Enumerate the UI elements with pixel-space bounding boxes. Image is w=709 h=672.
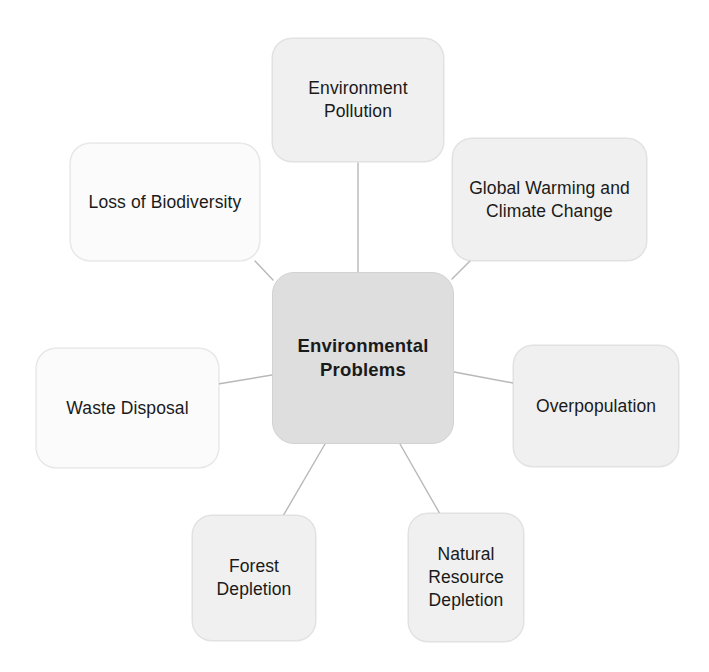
node-waste-disposal[interactable]: Waste Disposal <box>36 348 219 468</box>
connector-center-to-global-warming <box>452 261 470 279</box>
node-natural-resource[interactable]: Natural Resource Depletion <box>408 513 524 642</box>
node-label-natural-resource: Natural Resource Depletion <box>428 543 504 611</box>
node-environmental-problems[interactable]: Environmental Problems <box>272 272 454 444</box>
node-forest-depletion[interactable]: Forest Depletion <box>192 515 316 641</box>
node-label-waste-disposal: Waste Disposal <box>66 397 188 420</box>
node-label-overpopulation: Overpopulation <box>536 395 656 418</box>
node-global-warming[interactable]: Global Warming and Climate Change <box>452 138 647 261</box>
connector-center-to-waste-disposal <box>218 375 272 384</box>
connector-center-to-natural-resource <box>400 444 440 514</box>
node-label-environmental-problems: Environmental Problems <box>297 334 428 382</box>
node-label-loss-biodiversity: Loss of Biodiversity <box>89 191 242 214</box>
connector-center-to-overpopulation <box>454 372 513 383</box>
diagram-canvas: Environment Pollution Global Warming and… <box>0 0 709 672</box>
node-label-forest-depletion: Forest Depletion <box>217 555 292 601</box>
node-loss-biodiversity[interactable]: Loss of Biodiversity <box>70 143 260 261</box>
node-label-environment-pollution: Environment Pollution <box>308 77 407 123</box>
connector-center-to-loss-biodiversity <box>255 261 273 280</box>
connector-center-to-forest-depletion <box>283 444 325 516</box>
node-environment-pollution[interactable]: Environment Pollution <box>272 38 444 162</box>
node-overpopulation[interactable]: Overpopulation <box>513 345 679 467</box>
node-label-global-warming: Global Warming and Climate Change <box>469 177 630 223</box>
